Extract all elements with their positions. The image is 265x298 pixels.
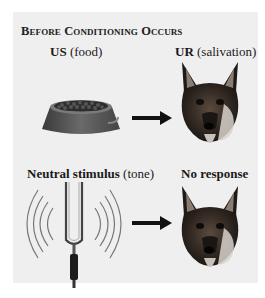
- us-detail: (food): [70, 44, 103, 59]
- us-label: US (food): [50, 44, 102, 60]
- dog-head-icon: [178, 186, 242, 278]
- ur-term: UR: [175, 44, 194, 59]
- food-bowl-icon: [40, 95, 122, 137]
- neutral-stimulus-label: Neutral stimulus (tone): [27, 166, 154, 182]
- us-term: US: [50, 44, 67, 59]
- diagram-title: Before Conditioning Occurs: [21, 24, 182, 39]
- ur-detail: (salivation): [197, 44, 256, 59]
- dog-head-icon: [178, 62, 242, 154]
- no-response-term: No response: [181, 166, 248, 181]
- neutral-stimulus-detail: (tone): [123, 166, 154, 181]
- right-arrow-icon: [132, 216, 172, 230]
- tuning-fork-icon: [26, 182, 122, 290]
- right-arrow-icon: [132, 111, 172, 125]
- neutral-stimulus-term: Neutral stimulus: [27, 166, 120, 181]
- no-response-label: No response: [181, 166, 248, 182]
- ur-label: UR (salivation): [175, 44, 256, 60]
